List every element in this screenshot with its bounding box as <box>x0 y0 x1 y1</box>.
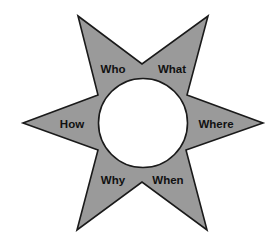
label-where: Where <box>198 118 233 130</box>
center-circle <box>99 79 188 168</box>
label-who: Who <box>101 63 126 75</box>
label-how: How <box>60 118 84 130</box>
label-why: Why <box>101 174 126 186</box>
star-diagram-svg: Who What Where When Why How <box>0 0 280 249</box>
label-what: What <box>158 63 186 75</box>
star-diagram: Who What Where When Why How <box>0 0 280 249</box>
label-when: When <box>152 174 183 186</box>
